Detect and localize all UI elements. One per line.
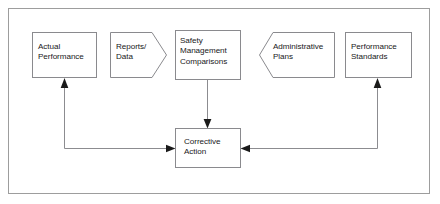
- connector-feedback-left: [65, 80, 174, 149]
- node-shape-actual-performance[interactable]: [33, 33, 97, 78]
- diagram-svg: [0, 0, 440, 204]
- node-shape-safety-management-comparisons[interactable]: [176, 31, 241, 80]
- node-shape-performance-standards[interactable]: [346, 33, 412, 78]
- diagram-canvas: Actual Performance Reports/ Data Safety …: [0, 0, 440, 204]
- arrowhead-safety-to-corrective: [204, 119, 212, 129]
- connector-feedback-right: [243, 80, 378, 149]
- node-shape-administrative-plans[interactable]: [260, 33, 335, 78]
- arrowhead-into-corrective-action-left: [166, 145, 176, 153]
- node-shape-reports-data[interactable]: [111, 33, 167, 78]
- arrowhead-into-corrective-action-right: [241, 145, 251, 153]
- node-shape-corrective-action[interactable]: [176, 129, 241, 168]
- arrowhead-into-actual-performance: [61, 78, 69, 88]
- arrowhead-into-performance-standards: [374, 78, 382, 88]
